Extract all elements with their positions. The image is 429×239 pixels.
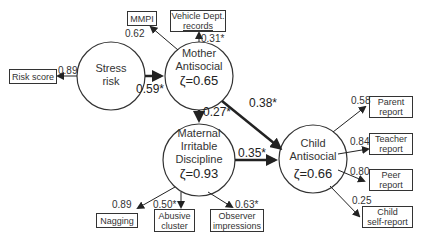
- node-mother-antisocial: Mother Antisocial ζ=0.65: [166, 47, 232, 89]
- loading-vehicle: 0.31*: [201, 34, 224, 44]
- loading-observer: 0.63*: [235, 200, 258, 210]
- loading-abusive: 0.50*: [153, 200, 176, 210]
- maternal-zeta: ζ=0.93: [164, 166, 234, 182]
- stress-label: Stress: [80, 62, 142, 75]
- loading-peer: 0.80: [350, 167, 369, 177]
- discipline-label: Discipline: [164, 153, 234, 166]
- coef-mother-maternal: 0.27*: [203, 107, 231, 117]
- coef-stress-mother: 0.59*: [136, 84, 164, 94]
- mother-zeta: ζ=0.65: [166, 73, 232, 89]
- loading-nagging: 0.89: [112, 200, 131, 210]
- box-parent-report: Parentreport: [369, 96, 413, 118]
- loading-risk-score: 0.89: [58, 66, 77, 76]
- box-risk-score: Risk score: [9, 69, 57, 84]
- box-observer-impressions: Observerimpressions: [210, 209, 264, 232]
- loading-self: 0.25: [352, 196, 371, 206]
- box-vehicle-dept: Vehicle Dept.records: [170, 10, 226, 32]
- loading-teacher: 0.84: [350, 137, 369, 147]
- coef-mother-child: 0.38*: [249, 98, 277, 108]
- loading-mmpi: 0.62: [125, 29, 144, 39]
- box-teacher-report: Teacherreport: [369, 133, 413, 155]
- coef-maternal-child: 0.35*: [238, 148, 266, 158]
- child-zeta: ζ=0.66: [280, 166, 346, 182]
- antisocial-label: Antisocial: [166, 60, 232, 73]
- child-label: Child: [280, 137, 346, 150]
- mother-label: Mother: [166, 47, 232, 60]
- irritable-label: Irritable: [164, 140, 234, 153]
- box-child-self-report: Childself-report: [362, 206, 413, 228]
- node-maternal-discipline: Maternal Irritable Discipline ζ=0.93: [164, 127, 234, 182]
- box-nagging: Nagging: [96, 213, 138, 228]
- box-abusive-cluster: Abusivecluster: [154, 209, 195, 232]
- box-mmpi: MMPI: [127, 11, 157, 26]
- node-stress-risk: Stress risk: [80, 62, 142, 88]
- child-antisocial-label: Antisocial: [280, 150, 346, 163]
- box-peer-report: Peerreport: [369, 169, 413, 191]
- maternal-label: Maternal: [164, 127, 234, 140]
- risk-label: risk: [80, 75, 142, 88]
- node-child-antisocial: Child Antisocial ζ=0.66: [280, 137, 346, 182]
- loading-parent: 0.58: [351, 96, 370, 106]
